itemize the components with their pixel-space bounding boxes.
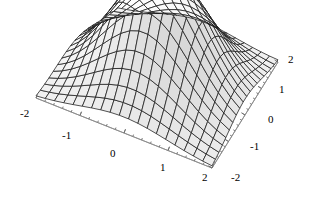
left_axis-tick-label-2: 0 <box>110 148 116 159</box>
surface-plot-3d: -2-1012210-1-2 <box>0 0 309 197</box>
surface-plot-canvas <box>0 0 309 197</box>
surface-mesh <box>36 0 278 166</box>
left_axis-tick-label-0: -2 <box>20 108 29 119</box>
right_axis-tick-label-2: 0 <box>268 114 274 125</box>
right_axis-tick-label-3: -1 <box>250 141 259 152</box>
left_axis-tick-label-3: 1 <box>160 162 166 173</box>
right_axis-tick-label-0: 2 <box>288 54 294 65</box>
left_axis-tick-label-1: -1 <box>62 130 71 141</box>
right_axis-tick-label-1: 1 <box>279 84 285 95</box>
right_axis-tick-label-4: -2 <box>231 172 240 183</box>
left_axis-tick-label-4: 2 <box>202 172 208 183</box>
